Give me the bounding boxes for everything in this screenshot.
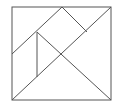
tangram-diagram — [0, 0, 117, 106]
top-small-edge — [62, 7, 87, 32]
